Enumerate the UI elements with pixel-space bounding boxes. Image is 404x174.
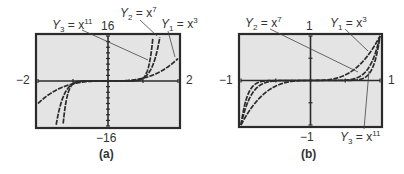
panel-a-x-min-label: −2 [16,73,30,87]
panel-b-x-max-label: 1 [388,73,395,87]
panel-b-y-min-label: −1 [300,130,314,144]
panel-a-legend-y1: Y1 = x3 [161,16,198,33]
panel-b-caption: (b) [301,147,316,161]
panel-b-x-min-label: −1 [219,73,233,87]
panel-a-y-max-label: 16 [101,19,115,33]
panel-a-y-min-label: −16 [96,131,117,145]
panel-a-legend-y2: Y2 = x7 [120,5,157,22]
panel-b: −1 1 1 −1 (b) Y2 = x7 Y1 = x3 Y3 = x11 [219,15,395,161]
panel-a: −2 2 16 −16 (a) Y3 = x11 Y2 = x7 Y1 = x3 [16,5,198,161]
panel-b-legend-y3: Y3 = x11 [340,129,381,146]
panel-a-x-max-label: 2 [186,73,193,87]
panel-b-legend-y1: Y1 = x3 [330,15,367,32]
panel-b-y-max-label: 1 [306,19,313,33]
panel-a-caption: (a) [99,147,114,161]
panel-a-legend-y3: Y3 = x11 [52,17,93,34]
panel-b-legend-y2: Y2 = x7 [245,15,282,32]
